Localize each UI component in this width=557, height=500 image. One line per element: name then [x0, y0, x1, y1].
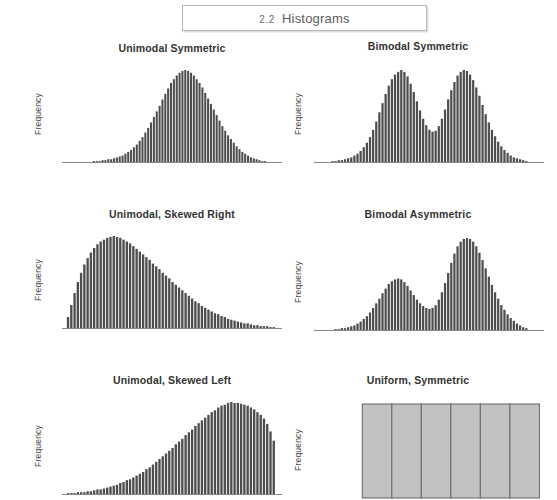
histogram-bar — [175, 285, 177, 328]
histogram-bar — [170, 83, 172, 162]
histogram-bar — [201, 87, 203, 162]
histogram-bar — [381, 293, 383, 330]
histogram-bar — [155, 266, 157, 328]
histogram-bar — [460, 72, 462, 162]
histogram-plot — [62, 64, 282, 164]
histogram-bar — [181, 71, 183, 162]
histogram-bar — [253, 158, 255, 162]
histogram-bar — [338, 329, 340, 330]
histogram-bar — [341, 328, 343, 330]
histogram-bar — [244, 154, 246, 162]
histogram-bar — [522, 160, 524, 162]
histogram-bar — [397, 72, 399, 162]
histogram-bar — [441, 292, 443, 330]
histogram-bar — [179, 73, 181, 162]
y-axis-label: Frequency — [30, 64, 46, 164]
histogram-bar — [150, 122, 152, 162]
histogram-bar — [481, 260, 483, 330]
histogram-bar — [246, 323, 248, 328]
histogram-bar — [122, 240, 124, 328]
histogram-bar — [191, 299, 193, 328]
histogram-bar — [394, 279, 396, 330]
histogram-bar — [165, 276, 167, 328]
histogram-plot — [314, 232, 544, 332]
histogram-bar — [161, 99, 163, 162]
histogram-bar — [227, 135, 229, 162]
y-axis-label: Frequency — [290, 64, 306, 164]
histogram-bar — [366, 316, 368, 330]
histogram-bar — [350, 157, 352, 162]
histogram-bar — [176, 76, 178, 162]
histogram-plot — [314, 64, 544, 164]
histogram-bar — [416, 300, 418, 330]
histogram-bar — [392, 404, 422, 498]
histogram-bar — [438, 126, 440, 162]
histogram-bar — [83, 265, 85, 328]
histogram-bar — [241, 152, 243, 162]
histogram-bar — [431, 308, 433, 330]
histogram-bar — [127, 152, 129, 162]
histogram-bar — [360, 322, 362, 330]
histogram-bar — [381, 103, 383, 162]
histogram-bar — [220, 406, 222, 494]
histogram-bar — [400, 279, 402, 330]
histogram-bar — [67, 317, 69, 328]
histogram-bar — [171, 282, 173, 328]
histogram-bar — [331, 161, 333, 162]
histogram-bar — [347, 158, 349, 162]
histogram-bar — [460, 242, 462, 330]
histogram-bar — [80, 492, 82, 494]
histogram-bar — [145, 469, 147, 494]
histogram-bar — [334, 161, 336, 162]
histogram-bar — [256, 412, 258, 494]
histogram-bar — [485, 114, 487, 162]
histogram-bar — [341, 160, 343, 162]
histogram-bar — [491, 285, 493, 330]
histogram-bar — [256, 159, 258, 162]
histogram-bar — [525, 161, 527, 162]
histogram-panel-unimodal-skewed-right: Unimodal, Skewed Right Frequency — [62, 208, 282, 330]
histogram-bar — [197, 423, 199, 494]
histogram-bar — [230, 402, 232, 494]
histogram-bar — [204, 93, 206, 162]
histogram-bar — [488, 277, 490, 330]
histogram-bar — [356, 154, 358, 162]
histogram-bar — [431, 132, 433, 162]
histogram-bar — [107, 159, 109, 162]
histogram-bar — [246, 406, 248, 494]
histogram-bar — [253, 325, 255, 328]
histogram-bar — [273, 327, 275, 328]
histogram-bar — [201, 306, 203, 328]
histogram-bar — [130, 150, 132, 162]
histogram-bar — [269, 327, 271, 328]
histogram-bar — [204, 308, 206, 328]
histogram-bar — [503, 150, 505, 162]
histogram-bar — [171, 448, 173, 494]
histogram-bar — [428, 130, 430, 162]
histogram-bar — [126, 480, 128, 494]
histogram-bar — [80, 273, 82, 328]
histogram-bar — [422, 119, 424, 162]
histogram-bar — [475, 87, 477, 162]
histogram-bar — [273, 441, 275, 494]
plot-row: Frequency — [292, 64, 544, 164]
histogram-bar — [406, 286, 408, 330]
histogram-bar — [372, 308, 374, 330]
histogram-bar — [263, 326, 265, 328]
histogram-bar — [83, 492, 85, 494]
histogram-bar — [162, 273, 164, 328]
histogram-bar — [391, 281, 393, 330]
histogram-bar — [466, 238, 468, 330]
histogram-bar — [378, 112, 380, 162]
histogram-bar — [347, 327, 349, 330]
histogram-plot — [62, 396, 282, 496]
histogram-bar — [478, 253, 480, 330]
histogram-bar — [522, 327, 524, 330]
histogram-bar — [213, 110, 215, 162]
plot-row: Frequency — [62, 396, 282, 496]
histogram-bar — [119, 238, 121, 328]
histogram-bar — [194, 301, 196, 328]
histogram-bar — [344, 159, 346, 162]
histogram-bar — [266, 424, 268, 494]
y-axis-label: Frequency — [30, 396, 46, 496]
